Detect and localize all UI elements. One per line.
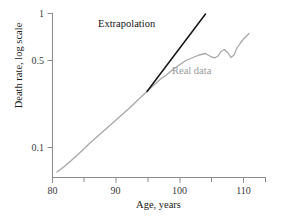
x-tick-label-80: 80: [39, 186, 66, 196]
annotation-real-data: Real data: [172, 66, 211, 77]
series-extrapolation: [147, 14, 206, 92]
annotation-extrapolation: Extrapolation: [98, 19, 155, 30]
y-axis-title: Death rate, log scale: [13, 0, 24, 136]
x-tick-label-110: 110: [230, 186, 257, 196]
x-tick-label-100: 100: [166, 186, 193, 196]
series-real-data: [57, 34, 249, 173]
death-rate-chart: 1 0.5 0.1 80 90 100 110 Death rate, log …: [0, 0, 285, 221]
x-tick-label-90: 90: [102, 186, 129, 196]
x-axis-title: Age, years: [52, 199, 265, 210]
y-tick-label-0-1: 0.1: [18, 143, 44, 153]
